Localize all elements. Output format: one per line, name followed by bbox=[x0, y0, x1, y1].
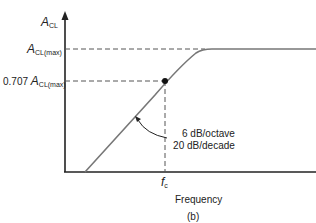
slope-arrowhead-icon bbox=[135, 116, 141, 122]
y-axis-label: ACL bbox=[41, 16, 58, 32]
figure-caption: (b) bbox=[187, 211, 199, 223]
y-axis-arrow-icon bbox=[62, 11, 69, 20]
response-curve bbox=[85, 49, 316, 172]
max-gain-label: ACL(max) bbox=[27, 43, 62, 59]
x-axis-label: Frequency bbox=[175, 194, 222, 206]
slope-annotation-arrow bbox=[138, 120, 167, 138]
bode-plot-figure: ACL ACL(max) 0.707 ACL(max) 6 dB/octave … bbox=[0, 0, 316, 223]
plot-graphics bbox=[0, 0, 316, 223]
cutoff-gain-label: 0.707 ACL(max) bbox=[3, 75, 66, 91]
slope-label: 6 dB/octave 20 dB/decade bbox=[172, 128, 235, 152]
fc-label: fc bbox=[161, 176, 168, 192]
cutoff-point bbox=[162, 78, 168, 84]
